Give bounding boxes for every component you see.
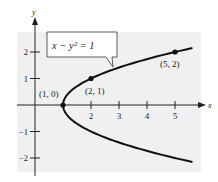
x-tick-label: 2 [89,111,93,121]
point-marker [88,76,93,81]
y-tick-label: −1 [19,127,28,137]
point-marker [60,102,65,107]
x-axis-label: x [207,101,212,110]
point-marker [172,49,177,54]
y-tick-label: 2 [24,47,28,57]
y-axis-label: y [31,8,36,17]
equation-label: x − y² = 1 [51,40,94,51]
point-label: (2, 1) [85,86,105,96]
point-label: (5, 2) [160,59,180,69]
point-label: (1, 0) [39,89,59,99]
y-axis-arrow-icon [32,17,38,25]
x-tick-label: 3 [117,111,121,121]
x-axis-arrow-icon [198,102,206,108]
parabola-chart: x y 2345 21−1−2 x − y² = 1 (1, 0)(2, 1)(… [0,0,218,182]
x-tick-label: 5 [173,111,177,121]
y-tick-label: 1 [24,74,28,84]
y-tick-label: −2 [19,153,28,163]
